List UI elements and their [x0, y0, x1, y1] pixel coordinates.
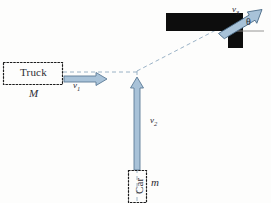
- theta-angle-label: θ: [246, 17, 251, 27]
- physics-diagram: Truck M Car m v1 v2 v3 θ: [0, 0, 271, 203]
- velocity-label-v2: v2: [150, 116, 157, 127]
- v2-subscript: 2: [154, 120, 157, 127]
- v3-subscript: 3: [236, 9, 239, 16]
- velocity-label-v3: v3: [232, 5, 239, 16]
- wreck-trajectory-line: [137, 30, 216, 71]
- diagram-canvas: [0, 0, 271, 203]
- velocity-arrow-v1: [64, 73, 107, 86]
- truck-mass-label: M: [29, 88, 38, 99]
- velocity-label-v1: v1: [73, 81, 80, 92]
- velocity-arrow-v2: [131, 77, 144, 170]
- truck-label: Truck: [20, 67, 47, 78]
- v1-subscript: 1: [77, 85, 80, 92]
- car-label: Car: [134, 178, 145, 194]
- car-mass-label: m: [151, 177, 159, 188]
